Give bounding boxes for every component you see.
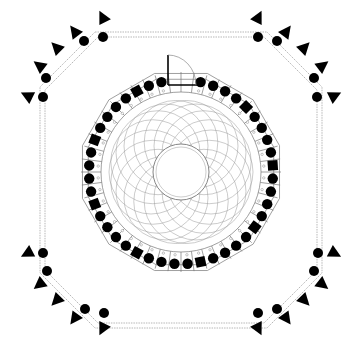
floor-plan-diagram — [0, 0, 362, 364]
rosette-pattern — [109, 100, 253, 243]
